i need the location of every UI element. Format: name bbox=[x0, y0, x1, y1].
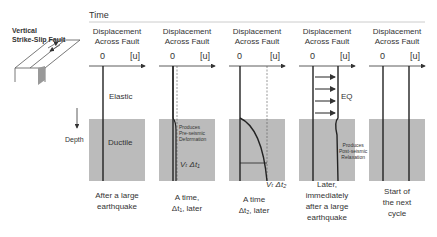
eq-label: EQ bbox=[341, 92, 353, 101]
panel-header: DisplacementAcross Fault bbox=[369, 27, 425, 47]
preseismic-annotation: ProducesPre-seismicDeformation bbox=[179, 124, 206, 142]
velocity-label: Vₜ Δt₁ bbox=[180, 160, 200, 169]
ductile-label: Ductile bbox=[108, 138, 132, 147]
caption-panel-5: Start ofthe nextcycle bbox=[369, 186, 425, 219]
unit-label: [u] bbox=[340, 51, 350, 61]
velocity-label: Vₜ Δt₂ bbox=[266, 180, 286, 189]
fault-label: Vertical Strike-Slip Fault bbox=[12, 26, 65, 44]
time-label: Time bbox=[89, 10, 109, 20]
fault-block-icon bbox=[15, 40, 80, 85]
zero-label: 0 bbox=[237, 51, 242, 61]
postseismic-annotation: ProducesPost-seismicRelaxation bbox=[339, 142, 367, 160]
elastic-label: Elastic bbox=[109, 92, 133, 101]
caption-panel-2: A time,Δt₁, later bbox=[159, 192, 215, 214]
caption-panel-1: After a largeearthquake bbox=[89, 190, 145, 212]
zero-label: 0 bbox=[170, 51, 175, 61]
unit-label: [u] bbox=[130, 51, 140, 61]
caption-panel-4: Later,immediatelyafter a largeearthquake bbox=[299, 179, 355, 223]
unit-label: [u] bbox=[270, 51, 280, 61]
panel-header: DisplacementAcross Fault bbox=[159, 27, 215, 47]
panels bbox=[89, 66, 425, 181]
depth-label: Depth bbox=[65, 136, 84, 143]
panel-header: DisplacementAcross Fault bbox=[89, 27, 145, 47]
zero-label: 0 bbox=[100, 51, 105, 61]
zero-label: 0 bbox=[380, 51, 385, 61]
panel-header: DisplacementAcross Fault bbox=[229, 27, 285, 47]
unit-label: [u] bbox=[200, 51, 210, 61]
zero-label: 0 bbox=[310, 51, 315, 61]
caption-panel-3: A timeΔt₂, later bbox=[229, 194, 279, 216]
unit-label: [u] bbox=[410, 51, 420, 61]
panel-header: DisplacementAcross Fault bbox=[299, 27, 355, 47]
